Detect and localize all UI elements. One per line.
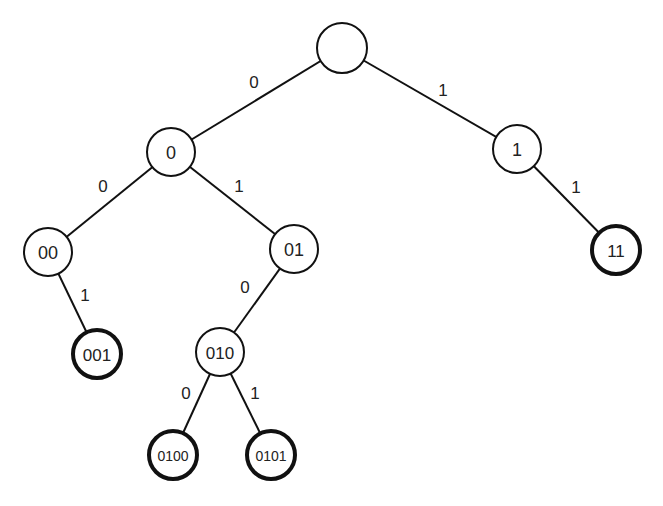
edge-label: 1 [438,81,447,100]
node-label: 0100 [157,448,188,464]
edge-line [342,48,517,149]
tree-node-11: 11 [592,226,640,274]
tree-node-010: 010 [196,328,244,376]
node-label: 0 [166,143,176,163]
edge-label: 0 [181,384,190,403]
edge-line [171,48,342,152]
edge-root-n1: 1 [342,48,517,149]
tree-node-001: 001 [73,330,121,378]
tree-node-0100: 0100 [149,431,197,479]
node-label: 010 [206,344,234,363]
edge-label: 1 [250,384,259,403]
tree-node-1: 1 [493,125,541,173]
node-label: 0101 [255,448,286,464]
node-label: 1 [512,140,522,160]
nodes-layer: 0100011100101001000101 [24,23,640,479]
tree-node-00: 00 [24,228,72,276]
edge-root-n0: 0 [171,48,342,152]
edge-label: 0 [240,278,249,297]
node-label: 00 [38,243,58,263]
tree-node-0: 0 [147,128,195,176]
edge-label: 1 [80,286,89,305]
edge-label: 1 [571,178,580,197]
edge-label: 1 [234,177,243,196]
tree-node-01: 01 [270,225,318,273]
node-circle [317,23,367,73]
binary-trie-diagram: 010111001 0100011100101001000101 [0,0,663,506]
edges-layer: 010111001 [48,48,616,455]
tree-node-0101: 0101 [247,431,295,479]
node-label: 01 [284,240,304,260]
edge-label: 0 [98,177,107,196]
edge-label: 0 [249,73,258,92]
node-label: 11 [607,242,625,261]
tree-node-root [317,23,367,73]
node-label: 001 [83,346,111,365]
